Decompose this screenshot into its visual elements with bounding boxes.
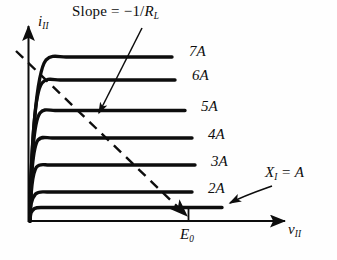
x-axis-label-symbol: v [288,221,295,237]
slope-annotation-prefix: Slope = −1/ [72,3,144,19]
family-annotation-subscript: I [274,172,277,182]
figure-canvas: Slope = −1/RL iII vII E0 7A 6A 5A 4A 3A … [0,0,337,260]
curve-6a [30,79,175,221]
x-axis-label-subscript: II [295,229,301,239]
x-tick-label-symbol: E [180,226,189,242]
curve-label-3a: 3A [211,154,228,169]
curve-label-5a: 5A [201,99,218,114]
y-axis-label-subscript: II [42,21,48,31]
family-annotation-symbol: X [265,164,274,180]
x-tick-label-e0: E0 [180,227,194,242]
curve-label-6a: 6A [192,68,209,83]
x-tick-label-subscript: 0 [189,234,194,244]
curve-1a [30,207,222,221]
family-annotation-rest: = A [277,164,304,180]
curve-label-7a: 7A [189,44,206,59]
slope-annotation-symbol: R [144,3,153,19]
characteristic-curves-plot [0,0,337,260]
slope-leader-line [99,28,142,113]
family-leader-line [230,186,272,203]
curve-label-4a: 4A [208,127,225,142]
y-axis-label: iII [38,14,48,29]
slope-annotation-subscript: L [154,11,159,21]
family-annotation: XI = A [265,165,304,180]
x-axis-label: vII [288,222,301,237]
curve-label-2a: 2A [208,181,225,196]
slope-annotation: Slope = −1/RL [72,3,159,20]
